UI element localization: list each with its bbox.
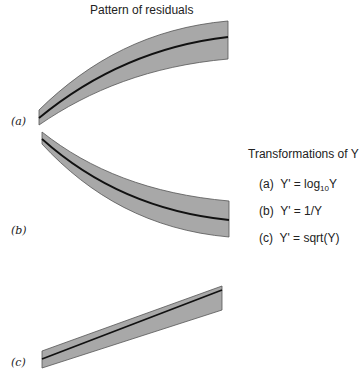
- transform-formula: Y' = sqrt(Y): [279, 231, 339, 245]
- transform-b: (b) Y' = 1/Y: [259, 204, 322, 218]
- transform-letter: (b): [259, 204, 274, 218]
- transform-subscript: 10: [320, 184, 329, 193]
- transformations-title: Transformations of Y: [248, 147, 359, 161]
- transform-letter: (c): [259, 231, 273, 245]
- band-b: [42, 132, 229, 237]
- transform-formula: Y' = 1/Y: [280, 204, 322, 218]
- panel-label-c: (c): [11, 356, 26, 369]
- transform-formula: Y' = log: [280, 177, 320, 191]
- transform-c: (c) Y' = sqrt(Y): [259, 231, 339, 245]
- transform-letter: (a): [259, 177, 274, 191]
- transform-formula-tail: Y: [329, 177, 337, 191]
- band-a: [39, 21, 228, 125]
- panel-label-a: (a): [11, 115, 26, 128]
- band-c: [42, 286, 222, 368]
- panel-label-b: (b): [11, 224, 27, 237]
- transform-a: (a) Y' = log10Y: [259, 177, 337, 193]
